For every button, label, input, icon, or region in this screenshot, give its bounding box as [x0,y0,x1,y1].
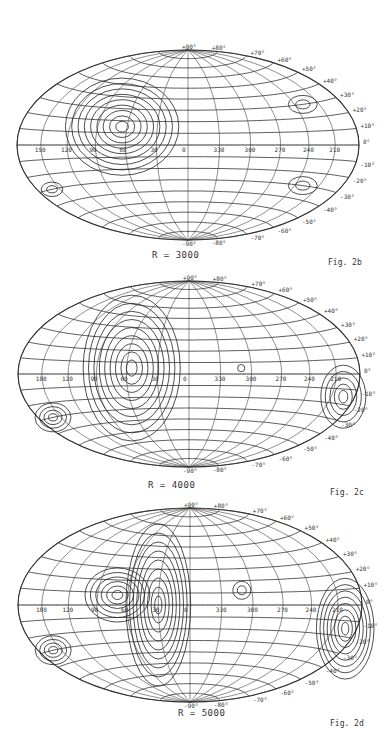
latitude-label: +60° [280,515,294,521]
contour-ring [342,622,349,635]
longitude-label: 240 [306,607,317,613]
contour-ring [233,581,251,599]
latitude-label: +90° [184,502,198,508]
latitude-label: -20° [356,639,370,645]
radius-label: R = 5000 [178,708,225,718]
longitude-label: 90 [91,607,98,613]
latitude-label: +70° [253,508,267,514]
latitude-label: -80° [214,702,228,708]
longitude-label: 180 [36,607,47,613]
latitude-label: +80° [214,503,228,509]
latitude-label: +20° [356,566,370,572]
latitude-label: -10° [363,623,377,629]
longitude-label: 210 [332,607,343,613]
contour-ring [237,586,246,595]
contour-ring [85,568,150,622]
longitude-label: 300 [247,607,258,613]
latitude-label: -30° [343,655,357,661]
figure-caption: Fig. 2d [330,719,364,728]
latitude-label: -70° [253,697,267,703]
aitoff-map-2d [0,0,392,748]
latitude-label: +30° [343,551,357,557]
longitude-label: 30 [152,607,159,613]
contour-ring [107,586,129,604]
contour-ring [90,573,144,618]
latitude-label: +40° [326,537,340,543]
contour-ring [112,591,123,600]
longitude-label: 120 [62,607,73,613]
latitude-label: +10° [363,582,377,588]
figure-2d: +90°+80°+70°+60°+50°+40°+30°+20°+10°0°-1… [0,0,392,748]
latitude-label: -50° [305,680,319,686]
longitude-label: 270 [277,607,288,613]
contour-ring [338,616,352,641]
latitude-label: +50° [305,525,319,531]
longitude-label: 60 [121,607,128,613]
coordinate-grid [18,508,362,702]
longitude-label: 0 [184,607,188,613]
latitude-label: -60° [280,690,294,696]
latitude-label: -40° [326,668,340,674]
longitude-label: 330 [216,607,227,613]
latitude-label: 0° [366,599,373,605]
contour-ring [101,582,133,609]
contour-ring [96,577,139,613]
